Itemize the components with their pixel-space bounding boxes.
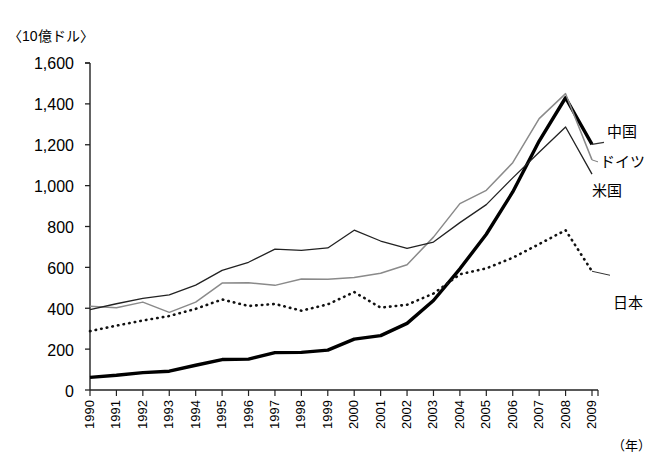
- chart-container: 〈10億ドル〉 1,600 1,400 1,200 1,000 800 600 …: [0, 0, 670, 462]
- x-tick-label-2007: 2007: [532, 400, 545, 429]
- x-tick-label-2008: 2008: [559, 400, 572, 429]
- series-line-japan: [90, 230, 592, 331]
- x-tick-label-1994: 1994: [189, 400, 202, 429]
- series-line-germany: [90, 94, 592, 313]
- series-line-usa: [90, 127, 592, 310]
- x-tick-label-1998: 1998: [294, 400, 307, 429]
- x-tick-label-1996: 1996: [242, 400, 255, 429]
- x-tick-label-1992: 1992: [136, 400, 149, 429]
- x-tick-label-2002: 2002: [400, 400, 413, 429]
- x-tick-label-2003: 2003: [426, 400, 439, 429]
- x-tick-label-1993: 1993: [162, 400, 175, 429]
- x-tick-label-1997: 1997: [268, 400, 281, 429]
- x-tick-label-2006: 2006: [506, 400, 519, 429]
- plot-svg: [0, 0, 670, 462]
- series-line-china: [90, 98, 592, 378]
- x-tick-label-2000: 2000: [347, 400, 360, 429]
- x-tick-label-1999: 1999: [321, 400, 334, 429]
- x-tick-label-1995: 1995: [215, 400, 228, 429]
- x-tick-label-1991: 1991: [109, 400, 122, 429]
- x-tick-label-1990: 1990: [83, 400, 96, 429]
- x-tick-label-2005: 2005: [479, 400, 492, 429]
- x-tick-label-2009: 2009: [585, 400, 598, 429]
- x-tick-label-2001: 2001: [374, 400, 387, 429]
- x-tick-label-2004: 2004: [453, 400, 466, 429]
